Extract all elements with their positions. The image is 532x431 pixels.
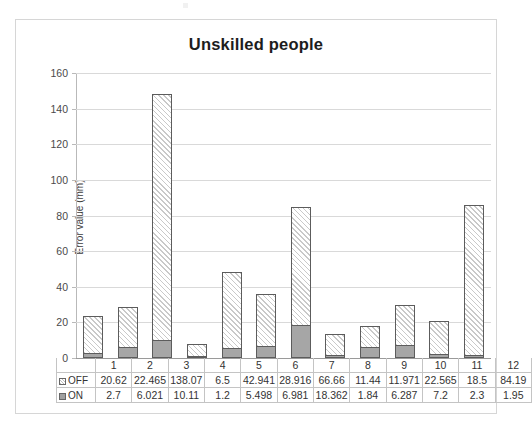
legend-row-off[interactable]: OFF xyxy=(57,373,96,388)
table-cell-off-10: 22.565 xyxy=(422,373,458,388)
y-axis-label-160: 160 xyxy=(50,67,68,79)
bar-segment-off-2[interactable] xyxy=(118,307,138,347)
table-cell-category-11: 11 xyxy=(459,358,495,373)
table-cell-on-12: 1.95 xyxy=(495,388,531,403)
bar-segment-on-10[interactable] xyxy=(395,345,415,358)
table-cell-category-5: 5 xyxy=(241,358,277,373)
bar-segment-off-12[interactable] xyxy=(464,205,484,355)
y-axis-label-60: 60 xyxy=(56,245,68,257)
bar-slot-7 xyxy=(284,73,319,358)
table-cell-on-5: 5.498 xyxy=(241,388,277,403)
bar-stack-12[interactable] xyxy=(464,205,484,358)
table-cell-on-1: 2.7 xyxy=(96,388,132,403)
table-cell-on-4: 1.2 xyxy=(204,388,240,403)
bar-stack-11[interactable] xyxy=(429,321,449,358)
bar-stack-3[interactable] xyxy=(152,94,172,358)
bar-stack-4[interactable] xyxy=(187,344,207,358)
bar-stack-1[interactable] xyxy=(83,316,103,358)
table-cell-off-12: 84.19 xyxy=(495,373,531,388)
series-label-on: ON xyxy=(68,390,83,401)
table-cell-category-6: 6 xyxy=(277,358,313,373)
table-cell-on-11: 2.3 xyxy=(459,388,495,403)
bar-stack-5[interactable] xyxy=(222,272,242,358)
bar-stack-9[interactable] xyxy=(360,326,380,359)
bar-slot-6 xyxy=(249,73,284,358)
bar-slot-1 xyxy=(76,73,111,358)
bar-stack-2[interactable] xyxy=(118,307,138,358)
bar-segment-on-6[interactable] xyxy=(256,346,276,358)
bar-segment-off-7[interactable] xyxy=(291,207,311,326)
table-cell-off-9: 11.971 xyxy=(386,373,422,388)
legend-swatch-off-icon xyxy=(59,378,66,385)
bar-slot-5 xyxy=(214,73,249,358)
table-cell-on-10: 7.2 xyxy=(422,388,458,403)
bar-slot-10 xyxy=(387,73,422,358)
bar-segment-off-10[interactable] xyxy=(395,305,415,345)
table-cell-on-2: 6.021 xyxy=(132,388,168,403)
bar-segment-off-1[interactable] xyxy=(83,316,103,353)
legend-row-on[interactable]: ON xyxy=(57,388,96,403)
bar-segment-on-7[interactable] xyxy=(291,325,311,358)
table-cell-off-5: 42.941 xyxy=(241,373,277,388)
bar-slot-3 xyxy=(145,73,180,358)
chart-title: Unskilled people xyxy=(16,35,496,54)
bar-slot-11 xyxy=(422,73,457,358)
y-axis-label-140: 140 xyxy=(50,103,68,115)
bar-segment-on-9[interactable] xyxy=(360,347,380,358)
table-cell-off-11: 18.5 xyxy=(459,373,495,388)
series-label-off: OFF xyxy=(68,375,88,386)
table-cell-off-7: 66.66 xyxy=(313,373,349,388)
table-cell-category-9: 9 xyxy=(386,358,422,373)
bar-stack-10[interactable] xyxy=(395,305,415,358)
bar-stack-7[interactable] xyxy=(291,207,311,358)
y-axis-label-40: 40 xyxy=(56,281,68,293)
table-cell-off-2: 22.465 xyxy=(132,373,168,388)
table-cell-category-7: 7 xyxy=(313,358,349,373)
bar-segment-off-6[interactable] xyxy=(256,294,276,346)
legend-swatch-on-icon xyxy=(59,393,66,400)
chart-container: Unskilled people Error value (mm) 020406… xyxy=(15,19,497,414)
table-cell-on-6: 6.981 xyxy=(277,388,313,403)
bar-slot-8 xyxy=(318,73,353,358)
table-cell-category-2: 2 xyxy=(132,358,168,373)
table-cell-on-8: 1.84 xyxy=(350,388,386,403)
bar-slot-4 xyxy=(180,73,215,358)
table-cell-off-1: 20.62 xyxy=(96,373,132,388)
table-cell-category-10: 10 xyxy=(422,358,458,373)
bar-slot-9 xyxy=(353,73,388,358)
bar-segment-off-5[interactable] xyxy=(222,272,242,348)
bar-segment-on-5[interactable] xyxy=(222,348,242,358)
bar-segment-off-9[interactable] xyxy=(360,326,380,347)
plot-area: 020406080100120140160 xyxy=(76,73,491,358)
table-cell-on-9: 6.287 xyxy=(386,388,422,403)
bar-segment-off-8[interactable] xyxy=(325,334,345,354)
table-cell-off-3: 138.07 xyxy=(168,373,204,388)
scan-artifact-top xyxy=(183,3,188,8)
y-axis-label-100: 100 xyxy=(50,174,68,186)
data-table: 123456789101112 OFF 20.6222.465138.076.5… xyxy=(56,358,532,403)
table-cell-on-7: 18.362 xyxy=(313,388,349,403)
table-cell-category-12: 12 xyxy=(495,358,531,373)
table-cell-off-6: 28.916 xyxy=(277,373,313,388)
y-axis-label-80: 80 xyxy=(56,210,68,222)
bar-segment-off-3[interactable] xyxy=(152,94,172,340)
y-axis-label-120: 120 xyxy=(50,138,68,150)
table-cell-off-4: 6.5 xyxy=(204,373,240,388)
table-cell-category-4: 4 xyxy=(204,358,240,373)
table-cell-category-1: 1 xyxy=(96,358,132,373)
bar-segment-off-11[interactable] xyxy=(429,321,449,354)
bar-stack-8[interactable] xyxy=(325,334,345,358)
table-cell-category-8: 8 xyxy=(350,358,386,373)
table-cell-category-3: 3 xyxy=(168,358,204,373)
bar-slot-12 xyxy=(456,73,491,358)
table-cell-off-8: 11.44 xyxy=(350,373,386,388)
table-row-categories: 123456789101112 xyxy=(57,358,532,373)
bar-slot-2 xyxy=(111,73,146,358)
table-row-off: OFF 20.6222.465138.076.542.94128.91666.6… xyxy=(57,373,532,388)
table-cell-on-3: 10.11 xyxy=(168,388,204,403)
bar-segment-off-4[interactable] xyxy=(187,344,207,356)
table-row-on: ON 2.76.02110.111.25.4986.98118.3621.846… xyxy=(57,388,532,403)
bar-stack-6[interactable] xyxy=(256,294,276,358)
bar-segment-on-3[interactable] xyxy=(152,340,172,358)
bar-segment-on-2[interactable] xyxy=(118,347,138,358)
